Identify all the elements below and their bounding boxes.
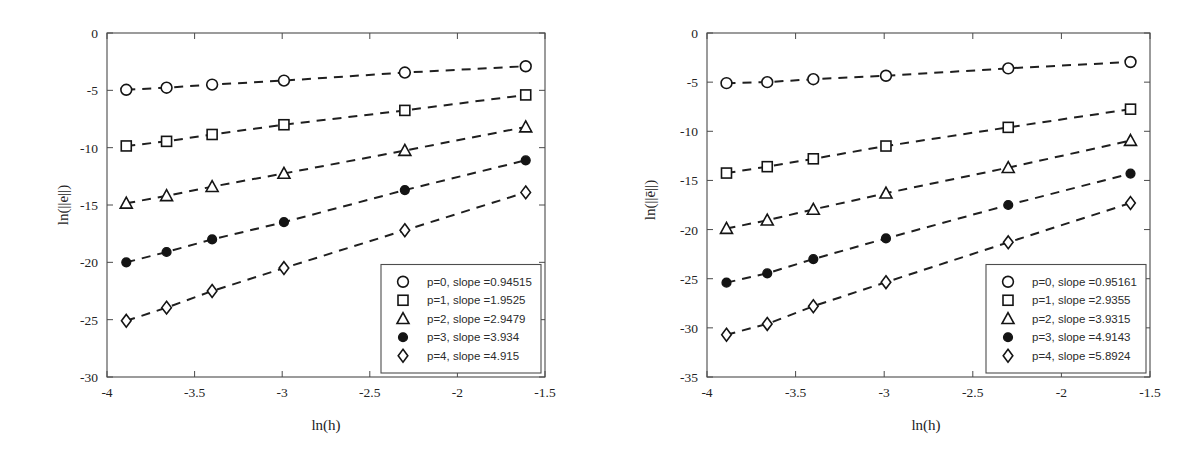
x-tick-label: -3.5 (785, 385, 807, 400)
data-point-marker (279, 75, 290, 86)
series-trend-line (726, 109, 1130, 173)
data-point-marker (809, 255, 818, 264)
data-point-marker (808, 154, 818, 164)
y-tick-label: -15 (680, 173, 698, 188)
data-point-marker (121, 84, 132, 95)
series-trend-line (126, 95, 525, 146)
x-tick-label: -2.5 (962, 385, 984, 400)
left-chart-svg: 0-5-10-15-20-25-30 -4-3.5-3-2.5-2-1.5 p=… (0, 0, 595, 455)
data-point-marker (807, 203, 819, 214)
series-trend-line (726, 62, 1130, 83)
chart-panel-right: 0-5-10-15-20-25-30-35 -4-3.5-3-2.5-2-1.5… (595, 0, 1190, 455)
data-point-marker (1004, 333, 1013, 342)
data-point-marker (122, 258, 131, 267)
left-y-axis-title: ln(||e||) (55, 185, 72, 225)
data-point-marker (1003, 63, 1014, 74)
legend-item-label: p=1, slope =1.9525 (427, 294, 525, 306)
legend-item-label: p=1, slope =2.9355 (1032, 294, 1130, 306)
data-point-marker (881, 141, 891, 151)
data-series (721, 104, 1135, 178)
data-point-marker (1125, 57, 1136, 68)
legend-item-label: p=3, slope =4.9143 (1032, 331, 1130, 343)
data-point-marker (399, 67, 410, 78)
data-point-marker (279, 262, 289, 275)
right-y-axis-title: ln(||ē||) (642, 180, 659, 220)
data-point-marker (721, 78, 732, 89)
series-trend-line (126, 66, 525, 90)
y-tick-label: -35 (680, 370, 698, 385)
data-point-marker (1126, 197, 1136, 210)
x-tick-label: -3.5 (184, 385, 206, 400)
data-point-marker (121, 314, 131, 327)
data-point-marker (121, 141, 131, 151)
x-tick-label: -3 (879, 385, 890, 400)
data-point-marker (279, 120, 289, 130)
data-point-marker (520, 121, 532, 132)
x-tick-label: -4 (701, 385, 712, 400)
y-tick-label: -25 (680, 272, 698, 287)
x-tick-label: -3 (277, 385, 288, 400)
y-tick-label: -5 (87, 83, 98, 98)
data-point-marker (1003, 295, 1013, 305)
data-point-marker (881, 276, 891, 289)
legend-item-label: p=2, slope =2.9479 (427, 313, 525, 325)
x-tick-label: -2.5 (359, 385, 381, 400)
x-tick-label: -2 (1056, 385, 1067, 400)
data-point-marker (1125, 135, 1137, 146)
data-series (720, 135, 1136, 234)
data-point-marker (1004, 201, 1013, 210)
data-series (121, 90, 530, 151)
data-point-marker (162, 301, 172, 314)
data-point-marker (1003, 276, 1014, 287)
left-x-axis-title: ln(h) (311, 417, 340, 434)
y-tick-label: -5 (687, 75, 698, 90)
data-point-marker (162, 248, 171, 257)
legend-item-label: p=4, slope =4.915 (427, 350, 519, 362)
data-point-marker (808, 74, 819, 85)
data-point-marker (161, 82, 172, 93)
right-chart-svg: 0-5-10-15-20-25-30-35 -4-3.5-3-2.5-2-1.5… (595, 0, 1190, 455)
data-point-marker (206, 181, 218, 192)
data-point-marker (398, 276, 409, 287)
data-point-marker (762, 77, 773, 88)
data-point-marker (1003, 236, 1013, 249)
data-point-marker (521, 186, 531, 199)
data-point-marker (722, 328, 732, 341)
data-point-marker (207, 129, 217, 139)
data-point-marker (722, 278, 731, 287)
data-series (120, 121, 531, 208)
data-series (122, 156, 530, 267)
series-trend-line (126, 127, 525, 203)
legend-item-label: p=3, slope =3.934 (427, 331, 520, 343)
x-tick-label: -2 (452, 385, 463, 400)
y-tick-label: -15 (80, 198, 98, 213)
legend-item-label: p=2, slope =3.9315 (1032, 313, 1130, 325)
data-point-marker (207, 285, 217, 298)
data-point-marker (161, 190, 173, 201)
right-legend: p=0, slope =0.95161p=1, slope =2.9355p=2… (986, 265, 1146, 374)
series-trend-line (726, 141, 1130, 229)
data-point-marker (280, 218, 289, 227)
data-series (121, 61, 531, 95)
y-tick-label: -30 (680, 321, 698, 336)
data-point-marker (520, 61, 531, 72)
chart-panel-left: 0-5-10-15-20-25-30 -4-3.5-3-2.5-2-1.5 p=… (0, 0, 595, 455)
data-point-marker (809, 300, 819, 313)
data-point-marker (1126, 104, 1136, 114)
x-tick-label: -1.5 (534, 385, 556, 400)
legend-item-label: p=0, slope =0.94515 (427, 276, 532, 288)
y-tick-label: -20 (680, 223, 698, 238)
data-point-marker (400, 224, 410, 237)
legend-item-label: p=4, slope =5.8924 (1032, 350, 1131, 362)
data-point-marker (521, 156, 530, 165)
figure-panel-row: 0-5-10-15-20-25-30 -4-3.5-3-2.5-2-1.5 p=… (0, 0, 1190, 455)
y-tick-label: -10 (680, 124, 698, 139)
data-point-marker (761, 214, 773, 225)
data-point-marker (208, 235, 217, 244)
x-tick-label: -1.5 (1139, 385, 1161, 400)
y-tick-label: -30 (80, 370, 98, 385)
data-point-marker (762, 162, 772, 172)
y-tick-label: -10 (80, 141, 98, 156)
data-point-marker (207, 79, 218, 90)
legend-item-label: p=0, slope =0.95161 (1032, 276, 1137, 288)
